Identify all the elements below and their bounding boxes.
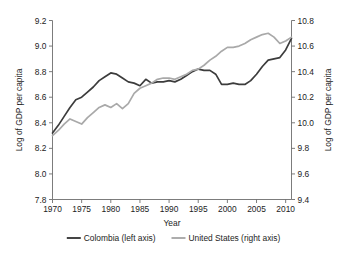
x-tick-label: 1995 (189, 204, 208, 214)
y-tick-label-left: 8.0 (35, 169, 47, 179)
y-tick-label-right: 10.2 (298, 92, 315, 102)
chart-container: 7.88.08.28.48.68.89.09.2 9.49.69.810.010… (0, 0, 347, 263)
legend-label-united-states: United States (right axis) (188, 233, 280, 243)
x-tick-label: 1980 (101, 204, 120, 214)
y-tick-label-left: 8.4 (35, 118, 47, 128)
y-tick-label-left: 9.2 (35, 16, 47, 26)
y-axis-title-right: Log of GDP per capita (323, 68, 333, 151)
legend-label-colombia: Colombia (left axis) (84, 233, 156, 243)
x-tick-label: 2010 (276, 204, 295, 214)
x-tick-label: 1970 (43, 204, 62, 214)
y-tick-label-right: 10.4 (298, 67, 315, 77)
line-chart: 7.88.08.28.48.68.89.09.2 9.49.69.810.010… (0, 0, 347, 263)
y-tick-label-right: 9.4 (298, 195, 310, 205)
y-tick-label-right: 9.6 (298, 169, 310, 179)
x-axis-title: Year (164, 218, 181, 228)
y-axis-title-left: Log of GDP per capita (14, 68, 24, 151)
x-tick-label: 2000 (218, 204, 237, 214)
x-tick-label: 1990 (160, 204, 179, 214)
x-tick-label: 1985 (131, 204, 150, 214)
y-tick-label-left: 8.6 (35, 92, 47, 102)
y-tick-label-left: 8.8 (35, 67, 47, 77)
y-tick-label-right: 10.6 (298, 41, 315, 51)
y-tick-label-left: 8.2 (35, 143, 47, 153)
y-tick-label-left: 9.0 (35, 41, 47, 51)
y-tick-label-right: 10.0 (298, 118, 315, 128)
y-tick-label-right: 10.8 (298, 16, 315, 26)
x-tick-label: 1975 (72, 204, 91, 214)
y-tick-label-right: 9.8 (298, 143, 310, 153)
x-tick-label: 2005 (247, 204, 266, 214)
